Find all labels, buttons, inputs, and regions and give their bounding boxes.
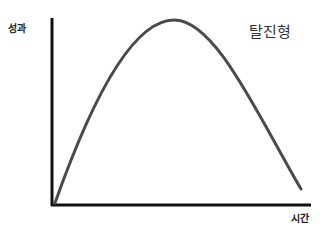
y-axis-label: 성과 xyxy=(8,20,26,35)
x-axis-label: 시간 xyxy=(291,210,309,225)
performance-curve xyxy=(55,20,301,203)
diagram-title: 탈진형 xyxy=(249,20,291,41)
